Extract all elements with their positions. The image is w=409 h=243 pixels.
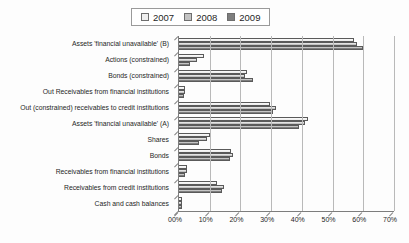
gridline <box>363 36 364 211</box>
bar-rows <box>179 36 394 211</box>
x-tick-label: 70% <box>377 216 403 223</box>
bar-2009 <box>179 110 273 114</box>
category-label: Bonds (constrained) <box>0 68 174 84</box>
gridline <box>210 36 211 211</box>
bar-2009 <box>179 189 222 193</box>
plot-area <box>178 36 394 212</box>
category-label: Cash and cash balances <box>0 195 174 211</box>
bar-row <box>179 179 394 195</box>
bar-row <box>179 163 394 179</box>
legend-swatch-2007 <box>141 13 149 21</box>
bar-chart-figure: 200720082009 Assets 'financial unavailab… <box>0 0 409 243</box>
category-label: Receivables from financial institutions <box>0 163 174 179</box>
bar-row <box>179 52 394 68</box>
bar-row <box>179 36 394 52</box>
bar-2009 <box>179 205 182 209</box>
bar-2009 <box>179 62 190 66</box>
x-tick-label: 60% <box>346 216 372 223</box>
gridline <box>240 36 241 211</box>
bar-row <box>179 84 394 100</box>
bar-2009 <box>179 173 185 177</box>
gridline <box>271 36 272 211</box>
legend-item-2008: 2008 <box>184 12 217 23</box>
category-label: Out Receivables from financial instituti… <box>0 84 174 100</box>
category-label: Assets 'financial unavailable' (B) <box>0 36 174 52</box>
bar-row <box>179 68 394 84</box>
legend-label: 2008 <box>196 12 217 23</box>
category-label: Actions (constrained) <box>0 52 174 68</box>
category-label: Shares <box>0 131 174 147</box>
x-tick-label: 40% <box>285 216 311 223</box>
bar-2009 <box>179 78 253 82</box>
bar-row <box>179 116 394 132</box>
legend-swatch-2009 <box>227 13 235 21</box>
gridline <box>394 36 395 211</box>
x-tick-label: 10% <box>193 216 219 223</box>
gridline <box>302 36 303 211</box>
legend-item-2009: 2009 <box>227 12 260 23</box>
category-axis-labels: Assets 'financial unavailable' (B)Action… <box>0 36 174 211</box>
x-tick-label: 50% <box>316 216 342 223</box>
legend-swatch-2008 <box>184 13 192 21</box>
x-tick-label: 00% <box>162 216 188 223</box>
bar-row <box>179 100 394 116</box>
bar-2009 <box>179 125 299 129</box>
x-tick-label: 30% <box>254 216 280 223</box>
bar-row <box>179 131 394 147</box>
category-label: Out (constrained) receivables to credit … <box>0 100 174 116</box>
bar-row <box>179 195 394 211</box>
category-label: Assets 'financial unavailable' (A) <box>0 116 174 132</box>
category-label: Bonds <box>0 147 174 163</box>
legend-label: 2009 <box>239 12 260 23</box>
bar-2009 <box>179 141 199 145</box>
category-label: Receivables from credit institutions <box>0 179 174 195</box>
bar-row <box>179 147 394 163</box>
legend-item-2007: 2007 <box>141 12 174 23</box>
gridline <box>333 36 334 211</box>
bar-2009 <box>179 94 184 98</box>
legend: 200720082009 <box>131 8 270 26</box>
x-tick-label: 20% <box>223 216 249 223</box>
bar-2009 <box>179 157 230 161</box>
legend-label: 2007 <box>153 12 174 23</box>
